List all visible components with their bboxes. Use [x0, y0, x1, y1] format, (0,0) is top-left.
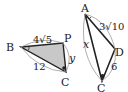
label-side-ac: x [83, 38, 90, 51]
label-side-ad: 3√10 [99, 21, 124, 32]
label-vertex-d: D [115, 46, 124, 59]
label-vertex-c-left: C [61, 76, 69, 89]
label-vertex-p: P [64, 32, 72, 45]
label-vertex-a: A [80, 2, 90, 15]
right-angle-mark-c-right [101, 74, 105, 78]
geometry-figure: B P C 4√5 12 y A D C 3√10 x 6 [0, 0, 128, 92]
label-side-dc: 6 [111, 61, 117, 72]
label-side-pc: y [68, 52, 76, 65]
triangle-bpc: B P C 4√5 12 y [6, 32, 76, 89]
label-vertex-b: B [6, 41, 14, 54]
right-angle-mark-c [62, 66, 66, 70]
label-side-bp: 4√5 [33, 34, 52, 45]
label-side-bc: 12 [33, 61, 46, 72]
triangle-adc: A D C 3√10 x 6 [80, 2, 124, 92]
label-vertex-c-right: C [97, 82, 105, 92]
